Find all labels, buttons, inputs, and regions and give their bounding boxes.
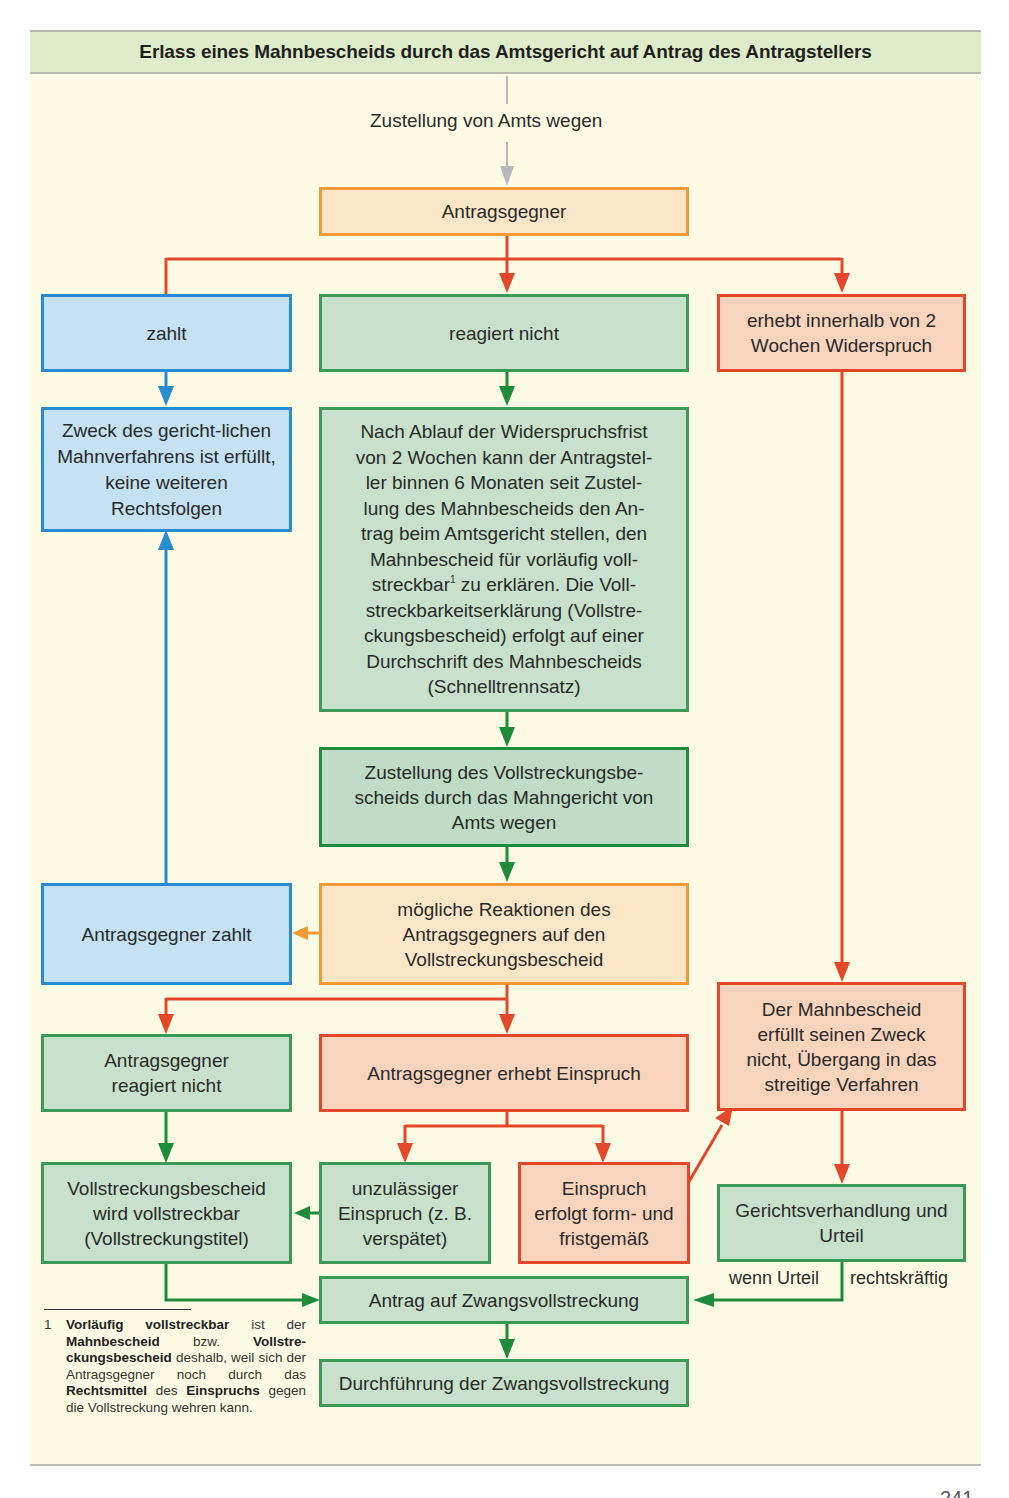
box-objection: erhebt innerhalb von 2 Wochen Widerspruc… xyxy=(717,294,966,372)
footnote-divider xyxy=(44,1309,191,1310)
footnote-text: Vorläufig vollstreckbar ist der Mahnbesc… xyxy=(66,1317,306,1416)
footnote-plain: bzw. xyxy=(160,1334,253,1349)
box-proper-appeal: Einspruch erfolgt form- und fristgemäß xyxy=(518,1162,690,1264)
footnote-plain: ist der xyxy=(229,1317,306,1332)
box-court-hearing: Gerichtsverhandlung und Urteil xyxy=(717,1184,966,1262)
footnote-word: streckbar xyxy=(372,574,450,595)
box-after-deadline: Nach Ablauf der Widerspruchsfrist von 2 … xyxy=(319,407,689,712)
box-respondent: Antragsgegner xyxy=(319,187,689,236)
box-not-fulfilled: Der Mahnbescheid erfüllt seinen Zweck ni… xyxy=(717,982,966,1111)
box-enforcement-request: Antrag auf Zwangsvollstreckung xyxy=(319,1276,689,1324)
text-line: (Schnelltrennsatz) xyxy=(427,674,580,700)
footnote: 1 Vorläufig vollstreckbar ist der Mahnbe… xyxy=(44,1317,306,1416)
diagram-title: Erlass eines Mahnbescheids durch das Amt… xyxy=(30,30,981,74)
box-respondent-pays: Antragsgegner zahlt xyxy=(41,883,292,985)
box-possible-reactions: mögliche Reaktionen des Antragsgegners a… xyxy=(319,883,689,985)
footnote-number: 1 xyxy=(44,1317,66,1416)
footnote-bold: Mahnbescheid xyxy=(66,1334,160,1349)
text-line: trag beim Amtsgericht stellen, den xyxy=(361,521,647,547)
box-respondent-appeals: Antragsgegner erhebt Einspruch xyxy=(319,1034,689,1112)
text-line: Nach Ablauf der Widerspruchsfrist xyxy=(360,419,647,445)
text-line: von 2 Wochen kann der Antragstel- xyxy=(356,445,652,471)
text-line: Mahnbescheid für vorläufig voll- xyxy=(370,547,638,573)
page-number: 241 xyxy=(940,1488,973,1498)
text-fragment: zu erklären. Die Voll- xyxy=(461,574,636,595)
box-inadmissible: unzulässiger Einspruch (z. B. verspätet) xyxy=(319,1162,491,1264)
footnote-marker: 1 xyxy=(450,574,456,585)
text-line: lung des Mahnbescheids den An- xyxy=(364,496,645,522)
text-line: streckbarkeitserklärung (Vollstre- xyxy=(366,598,643,624)
footnote-bold: Vorläufig vollstreckbar xyxy=(66,1317,229,1332)
bottom-divider xyxy=(30,1464,981,1466)
box-pays: zahlt xyxy=(41,294,292,372)
box-enforcement-execution: Durchführung der Zwangsvollstreckung xyxy=(319,1359,689,1407)
text-line: Durchschrift des Mahnbescheids xyxy=(366,649,642,675)
footnote-bold: Einspruchs xyxy=(186,1383,260,1398)
box-respondent-no-reaction: Antragsgegner reagiert nicht xyxy=(41,1034,292,1112)
text-line: ler binnen 6 Monaten seit Zustel- xyxy=(366,470,643,496)
box-enforceable: Vollstreckungsbescheid wird vollstreckba… xyxy=(41,1162,292,1264)
footnote-plain: des xyxy=(147,1383,186,1398)
service-label: Zustellung von Amts wegen xyxy=(370,110,602,132)
if-judgment-label: wenn Urteil xyxy=(729,1268,819,1289)
text-line: ckungsbescheid) erfolgt auf einer xyxy=(364,623,644,649)
footnote-bold: Rechtsmittel xyxy=(66,1383,147,1398)
text-line: streckbar1 zu erklären. Die Voll- xyxy=(372,572,636,598)
box-no-reaction: reagiert nicht xyxy=(319,294,689,372)
box-purpose-fulfilled: Zweck des gericht-lichen Mahnverfahrens … xyxy=(41,407,292,532)
final-label: rechtskräftig xyxy=(850,1268,948,1289)
box-delivery-enforcement: Zustellung des Vollstreckungsbe-scheids … xyxy=(319,747,689,847)
